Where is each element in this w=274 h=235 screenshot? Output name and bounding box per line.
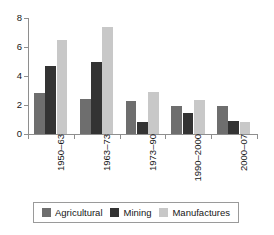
bar [183,113,194,134]
chart-legend: AgriculturalMiningManufactures [33,202,239,223]
bar [228,121,239,134]
legend-swatch-icon [159,208,168,217]
bar [102,27,113,134]
x-axis-tick [211,134,212,139]
x-axis-label: 1950–63 [56,134,66,194]
legend-label: Manufactures [172,208,230,218]
y-axis-tick-label: 6 [2,42,22,52]
y-axis-tick-label: 4 [2,71,22,81]
legend-item[interactable]: Mining [110,208,151,218]
x-axis-labels: 1950–631963–731973–901990–20002000–07 [0,140,274,196]
x-axis-label: 2000–07 [239,134,249,194]
bar [34,93,45,134]
legend-swatch-icon [42,208,51,217]
legend-item[interactable]: Agricultural [42,208,103,218]
bar [171,106,182,134]
legend-swatch-icon [110,208,119,217]
x-axis-label: 1990–2000 [193,134,203,194]
bar [91,62,102,134]
bars-layer [28,18,257,134]
bar [126,101,137,134]
x-axis-tick [120,134,121,139]
bar [80,99,91,134]
bar [240,122,251,134]
legend-item[interactable]: Manufactures [159,208,230,218]
x-axis-tick [165,134,166,139]
bar [217,106,228,134]
legend-label: Agricultural [55,208,103,218]
x-axis-tick [257,134,258,139]
bar [57,40,68,134]
bar [148,92,159,134]
legend-label: Mining [123,208,151,218]
plot-area: 02468 [0,0,274,142]
bar-chart: 02468 1950–631963–731973–901990–20002000… [0,0,274,235]
x-axis-tick [28,134,29,139]
x-axis-label: 1963–73 [102,134,112,194]
bar [137,122,148,134]
x-axis-tick [74,134,75,139]
bar [194,100,205,134]
y-axis-tick-label: 8 [2,13,22,23]
bar [45,66,56,134]
y-axis-tick-label: 0 [2,129,22,139]
x-axis-label: 1973–90 [148,134,158,194]
y-axis-tick-label: 2 [2,100,22,110]
